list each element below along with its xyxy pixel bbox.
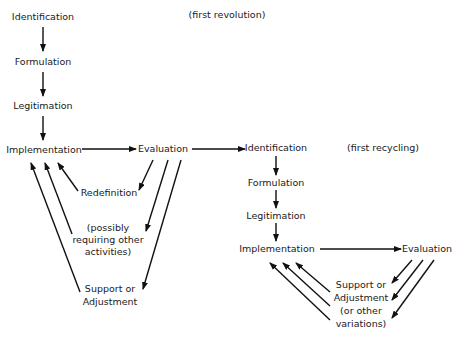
- stage-legitimation: Legitimation: [13, 100, 72, 112]
- recycle-stage-identification: Identification: [245, 142, 307, 154]
- recycle-feedback-line3: (or other: [340, 305, 382, 317]
- feedback-possibly-line3: activities): [85, 246, 132, 258]
- feedback-possibly-line2: requiring other: [72, 234, 143, 246]
- first-revolution-caption: (first revolution): [189, 9, 266, 21]
- recycle-stage-implementation: Implementation: [239, 243, 314, 255]
- stage-implementation: Implementation: [6, 144, 81, 156]
- arrow-recycle-evaluation-down-1: [392, 260, 412, 283]
- arrow-recycle-support-up-1: [296, 263, 330, 292]
- arrow-redefinition-to-implementation: [58, 163, 78, 191]
- arrow-recycle-support-up-3: [270, 263, 330, 320]
- stage-evaluation: Evaluation: [138, 143, 188, 155]
- arrow-recycle-evaluation-down-3: [392, 260, 434, 318]
- stage-formulation: Formulation: [15, 56, 72, 68]
- arrow-possibly-to-implementation: [45, 163, 72, 234]
- arrow-evaluation-to-possibly: [146, 160, 168, 231]
- recycle-stage-evaluation: Evaluation: [402, 243, 452, 255]
- recycle-feedback-line2: Adjustment: [334, 292, 389, 304]
- recycle-stage-legitimation: Legitimation: [246, 210, 305, 222]
- feedback-support-line2: Adjustment: [83, 296, 138, 308]
- recycle-stage-formulation: Formulation: [248, 177, 305, 189]
- arrow-evaluation-to-redefinition: [139, 160, 153, 190]
- arrow-recycle-support-up-2: [283, 263, 330, 306]
- feedback-possibly-line1: (possibly: [87, 222, 129, 234]
- first-recycling-caption: (first recycling): [347, 142, 419, 154]
- stage-identification: Identification: [12, 11, 74, 23]
- arrows-layer: [0, 0, 459, 337]
- recycle-feedback-line1: Support or: [336, 279, 386, 291]
- recycle-feedback-line4: variations): [336, 318, 387, 330]
- feedback-redefinition: Redefinition: [81, 187, 138, 199]
- feedback-support-line1: Support or: [85, 283, 135, 295]
